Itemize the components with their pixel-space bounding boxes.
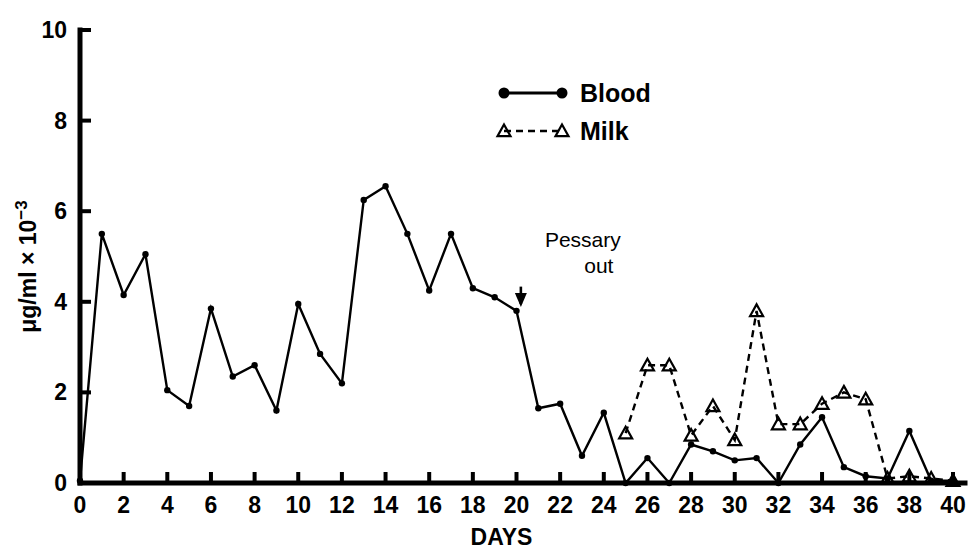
data-point-blood bbox=[317, 351, 323, 357]
legend-marker-blood bbox=[557, 88, 568, 99]
data-point-blood bbox=[513, 308, 519, 314]
x-axis-title: DAYS bbox=[471, 524, 533, 550]
x-tick-label: 36 bbox=[853, 492, 879, 518]
legend-marker-blood bbox=[499, 88, 510, 99]
data-point-blood bbox=[819, 414, 825, 420]
series-line-milk bbox=[626, 311, 953, 481]
x-tick-label: 8 bbox=[248, 492, 261, 518]
data-point-blood bbox=[99, 231, 105, 237]
data-point-blood bbox=[688, 441, 694, 447]
data-point-blood bbox=[164, 387, 170, 393]
data-point-blood bbox=[601, 410, 607, 416]
x-tick-label: 32 bbox=[766, 492, 792, 518]
x-tick-label: 14 bbox=[373, 492, 399, 518]
data-point-blood bbox=[863, 473, 869, 479]
data-point-blood bbox=[557, 401, 563, 407]
y-tick-label: 0 bbox=[54, 470, 67, 496]
data-point-blood bbox=[251, 362, 257, 368]
x-tick-label: 10 bbox=[285, 492, 311, 518]
data-point-blood bbox=[841, 464, 847, 470]
line-chart-canvas: 0246810024681012141618202224262830323436… bbox=[0, 0, 968, 560]
y-tick-label: 10 bbox=[41, 17, 67, 43]
annotation-line-1: Pessary bbox=[545, 228, 621, 251]
data-point-milk bbox=[706, 399, 719, 411]
annotation-line-2: out bbox=[584, 254, 613, 277]
data-point-blood bbox=[753, 455, 759, 461]
data-point-blood bbox=[426, 287, 432, 293]
data-point-blood bbox=[142, 251, 148, 257]
data-point-blood bbox=[273, 407, 279, 413]
x-tick-label: 38 bbox=[897, 492, 923, 518]
y-axis-title: μg/ml × 10−3 bbox=[12, 200, 41, 333]
y-tick-label: 8 bbox=[54, 108, 67, 134]
data-point-blood bbox=[186, 403, 192, 409]
data-point-blood bbox=[208, 305, 214, 311]
x-tick-label: 20 bbox=[504, 492, 530, 518]
data-point-blood bbox=[382, 183, 388, 189]
legend-label-blood: Blood bbox=[580, 79, 651, 107]
legend-label-milk: Milk bbox=[580, 117, 629, 145]
annotation-arrow-head bbox=[515, 293, 527, 307]
data-point-blood bbox=[361, 197, 367, 203]
data-point-blood bbox=[448, 231, 454, 237]
x-tick-label: 30 bbox=[722, 492, 748, 518]
data-point-blood bbox=[579, 453, 585, 459]
data-point-blood bbox=[77, 478, 83, 484]
chart-figure: 0246810024681012141618202224262830323436… bbox=[0, 0, 968, 560]
x-tick-label: 24 bbox=[591, 492, 617, 518]
series-line-blood bbox=[80, 186, 953, 483]
data-point-blood bbox=[295, 301, 301, 307]
data-point-blood bbox=[644, 455, 650, 461]
x-tick-label: 4 bbox=[161, 492, 174, 518]
data-point-blood bbox=[906, 428, 912, 434]
y-tick-label: 6 bbox=[54, 198, 67, 224]
data-point-blood bbox=[230, 373, 236, 379]
x-tick-label: 18 bbox=[460, 492, 486, 518]
x-tick-label: 26 bbox=[635, 492, 661, 518]
x-tick-label: 40 bbox=[940, 492, 966, 518]
x-tick-label: 6 bbox=[205, 492, 218, 518]
x-tick-label: 34 bbox=[809, 492, 835, 518]
data-point-blood bbox=[775, 480, 781, 486]
y-tick-label: 4 bbox=[54, 289, 67, 315]
data-point-blood bbox=[535, 405, 541, 411]
x-tick-label: 28 bbox=[678, 492, 704, 518]
data-point-blood bbox=[732, 457, 738, 463]
data-point-blood bbox=[622, 480, 628, 486]
data-point-blood bbox=[120, 292, 126, 298]
data-point-blood bbox=[404, 231, 410, 237]
x-tick-label: 12 bbox=[329, 492, 355, 518]
x-tick-label: 22 bbox=[547, 492, 573, 518]
data-point-blood bbox=[710, 448, 716, 454]
x-tick-label: 2 bbox=[117, 492, 130, 518]
data-point-blood bbox=[491, 294, 497, 300]
y-tick-label: 2 bbox=[54, 379, 67, 405]
data-point-blood bbox=[666, 480, 672, 486]
x-tick-label: 16 bbox=[416, 492, 442, 518]
data-point-blood bbox=[470, 285, 476, 291]
data-point-blood bbox=[339, 380, 345, 386]
x-tick-label: 0 bbox=[74, 492, 87, 518]
data-point-blood bbox=[797, 441, 803, 447]
